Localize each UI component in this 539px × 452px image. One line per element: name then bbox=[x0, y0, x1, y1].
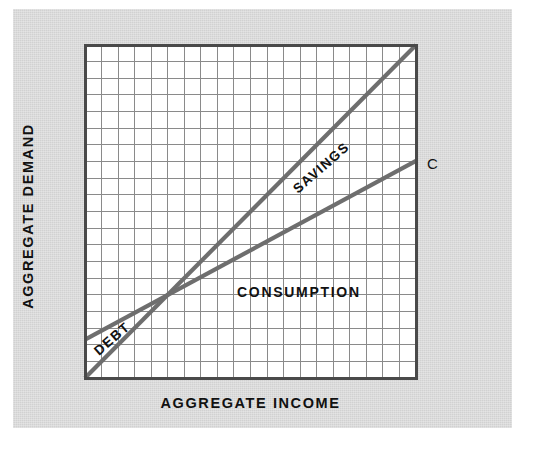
chart-canvas bbox=[0, 0, 539, 452]
consumption-curve-label: C bbox=[427, 155, 438, 172]
y-axis-label: AGGREGATE DEMAND bbox=[17, 96, 39, 336]
x-axis-label: AGGREGATE INCOME bbox=[85, 393, 416, 413]
figure-root: AGGREGATE DEMAND AGGREGATE INCOME CONSUM… bbox=[0, 0, 539, 452]
consumption-region-label: CONSUMPTION bbox=[237, 284, 361, 300]
